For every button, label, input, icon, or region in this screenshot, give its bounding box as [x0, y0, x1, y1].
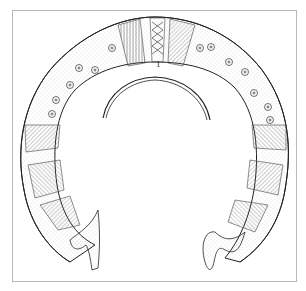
- side-decoration-bands: [25, 125, 286, 232]
- cross-section-arc: [103, 77, 210, 120]
- section-label: 1: [156, 60, 161, 69]
- artifact-drawing: [0, 0, 306, 291]
